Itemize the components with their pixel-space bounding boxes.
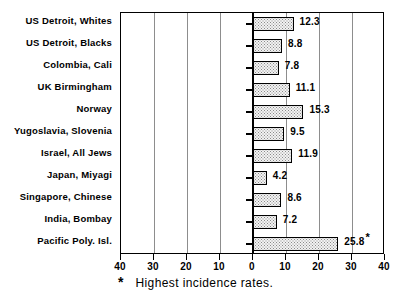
bar xyxy=(253,237,338,251)
x-tick xyxy=(219,254,220,260)
footnote: * Highest incidence rates. xyxy=(118,276,273,290)
x-tick-label: 10 xyxy=(270,261,300,272)
bar-value-label: 9.5 xyxy=(290,126,305,137)
bar-value-label: 8.6 xyxy=(287,192,302,203)
x-tick xyxy=(318,254,319,260)
bar xyxy=(253,215,277,229)
bar xyxy=(253,193,281,207)
bar-value-label: 15.3 xyxy=(309,104,329,115)
x-tick-label: 0 xyxy=(237,261,267,272)
category-label: UK Birmingham xyxy=(0,81,112,92)
bar xyxy=(253,83,290,97)
x-tick-label: 40 xyxy=(369,261,399,272)
bar-value-label: 4.2 xyxy=(273,170,288,181)
x-axis: 40302010010203040 xyxy=(120,254,384,278)
category-label: India, Bombay xyxy=(0,213,112,224)
bar-value-label: 11.9 xyxy=(298,148,318,159)
bar xyxy=(253,105,303,119)
bar-chart: US Detroit, WhitesUS Detroit, BlacksColo… xyxy=(0,0,419,301)
bar-value-label: 12.3 xyxy=(300,16,320,27)
bar xyxy=(253,127,284,141)
bar xyxy=(253,149,292,163)
bar xyxy=(253,39,282,53)
plot-area: 12.38.87.811.115.39.511.94.28.67.225.8* xyxy=(120,12,384,254)
x-tick xyxy=(285,254,286,260)
zero-axis-line xyxy=(252,13,254,253)
asterisk-icon: * xyxy=(118,276,123,288)
category-label: US Detroit, Whites xyxy=(0,15,112,26)
bar-value-label: 7.2 xyxy=(283,214,298,225)
asterisk-icon: * xyxy=(365,231,369,243)
x-tick-label: 20 xyxy=(303,261,333,272)
bar xyxy=(253,61,279,75)
category-label: Norway xyxy=(0,103,112,114)
footnote-text: Highest incidence rates. xyxy=(135,276,273,290)
category-label: Singapore, Chinese xyxy=(0,191,112,202)
x-tick-label: 40 xyxy=(105,261,135,272)
x-tick-label: 20 xyxy=(171,261,201,272)
category-label: Israel, All Jews xyxy=(0,147,112,158)
bar xyxy=(253,171,267,185)
category-label: Pacific Poly. Isl. xyxy=(0,235,112,246)
category-axis-labels: US Detroit, WhitesUS Detroit, BlacksColo… xyxy=(0,11,112,253)
x-tick-label: 30 xyxy=(336,261,366,272)
x-tick xyxy=(384,254,385,260)
x-tick-label: 10 xyxy=(204,261,234,272)
category-label: Japan, Miyagi xyxy=(0,169,112,180)
category-label: Colombia, Cali xyxy=(0,59,112,70)
bar-value-label: 7.8 xyxy=(285,60,300,71)
bar-value-label: 8.8 xyxy=(288,38,303,49)
x-tick xyxy=(351,254,352,260)
bar xyxy=(253,17,294,31)
category-label: US Detroit, Blacks xyxy=(0,37,112,48)
x-tick-label: 30 xyxy=(138,261,168,272)
bar-value-label: 25.8* xyxy=(344,236,370,247)
x-tick xyxy=(252,254,253,260)
x-tick xyxy=(120,254,121,260)
x-tick xyxy=(153,254,154,260)
bar-value-label: 11.1 xyxy=(296,82,316,93)
category-label: Yugoslavia, Slovenia xyxy=(0,125,112,136)
x-tick xyxy=(186,254,187,260)
